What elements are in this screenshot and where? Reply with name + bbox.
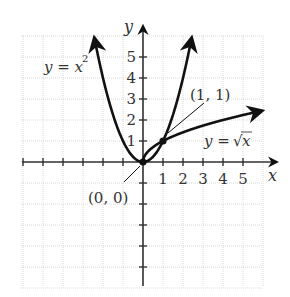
parabola-exponent: 2: [82, 53, 88, 64]
sqrt-arg: x: [242, 132, 251, 150]
y-tick-label: 5: [126, 48, 136, 66]
x-tick-label: 2: [178, 170, 188, 188]
y-tick-label: 1: [126, 132, 136, 150]
annotation-origin: (0, 0): [88, 189, 128, 207]
x-tick-label: 1: [158, 170, 168, 188]
point-one-one: [159, 137, 166, 144]
y-tick-label: 4: [126, 69, 136, 87]
x-tick-label: 3: [198, 170, 208, 188]
annotation-one-one: (1, 1): [190, 86, 230, 104]
leader-origin: [124, 166, 140, 182]
x-axis-label: x: [268, 166, 277, 185]
y-axis-label: y: [123, 17, 134, 36]
x-tick-label: 4: [218, 170, 228, 188]
point-origin: [139, 158, 146, 165]
parabola-label: y = x: [43, 58, 84, 76]
curves: [94, 38, 261, 182]
y-tick-label: 2: [126, 111, 136, 129]
sqrt-label-prefix: y =: [203, 132, 230, 150]
leader-one-one: [168, 103, 204, 133]
labels: 1234512345xyy = x2y = √x(1, 1)(0, 0): [43, 17, 277, 207]
x-tick-label: 5: [238, 170, 248, 188]
function-graph: 1234512345xyy = x2y = √x(1, 1)(0, 0): [0, 0, 290, 297]
y-tick-label: 3: [126, 90, 136, 108]
